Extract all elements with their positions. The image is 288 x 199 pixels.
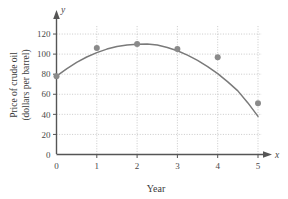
y-tick-label: 80: [42, 69, 52, 79]
x-axis-title: Year: [147, 183, 166, 194]
x-axis-arrow-icon: [263, 151, 272, 158]
data-point: [215, 54, 221, 60]
y-tick-label: 40: [42, 110, 52, 120]
y-axis-title-line-1: Price of crude oil: [9, 52, 19, 118]
crude-oil-price-scatter-chart: 012345 020406080100120 y x Year Price of…: [0, 0, 288, 199]
y-tick-label: 0: [46, 150, 51, 160]
y-axis-arrow-icon: [53, 10, 60, 19]
x-tick-label: 1: [95, 161, 100, 171]
x-tick-label: 2: [135, 161, 140, 171]
data-point: [94, 45, 100, 51]
data-point-markers: [54, 41, 262, 106]
y-tick-label: 120: [37, 29, 51, 39]
data-point: [174, 46, 180, 52]
y-axis-tick-labels: 020406080100120: [37, 29, 51, 159]
x-tick-label: 3: [175, 161, 180, 171]
y-axis-title: Price of crude oil (dollars per barrel): [9, 49, 32, 120]
data-point: [255, 100, 261, 106]
x-axis-variable-label: x: [274, 150, 280, 160]
axes: [53, 10, 272, 158]
data-point: [134, 41, 140, 47]
x-tick-label: 5: [256, 161, 261, 171]
chart-container: 012345 020406080100120 y x Year Price of…: [0, 0, 288, 199]
y-tick-label: 100: [37, 49, 51, 59]
y-axis-variable-label: y: [60, 5, 66, 15]
quadratic-fit-curve: [57, 44, 259, 116]
y-axis-title-line-2: (dollars per barrel): [21, 49, 32, 120]
x-tick-label: 0: [54, 161, 59, 171]
y-tick-label: 60: [42, 89, 52, 99]
data-point: [54, 73, 60, 79]
y-tick-label: 20: [42, 130, 52, 140]
x-tick-label: 4: [215, 161, 220, 171]
x-axis-tick-labels: 012345: [54, 161, 261, 171]
